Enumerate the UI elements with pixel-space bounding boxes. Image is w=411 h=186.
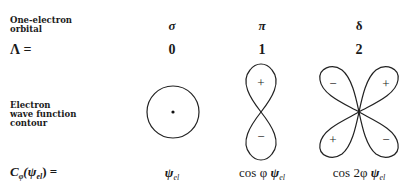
pi-sign-upper: + (257, 75, 264, 91)
symmetry-sigma: ψel (165, 165, 179, 182)
delta-sign-upper-left: − (329, 76, 336, 92)
pi-sign-lower: − (257, 129, 264, 145)
delta-sign-upper-right: + (382, 76, 389, 92)
sigma-contour (147, 86, 199, 138)
contour-diagrams (0, 0, 411, 186)
symmetry-pi: cos φ ψel (239, 165, 285, 182)
symmetry-delta: cos 2φ ψel (333, 165, 385, 182)
delta-sign-lower-right: − (382, 132, 389, 148)
delta-sign-lower-left: + (329, 132, 336, 148)
nucleus-dot (171, 110, 174, 113)
